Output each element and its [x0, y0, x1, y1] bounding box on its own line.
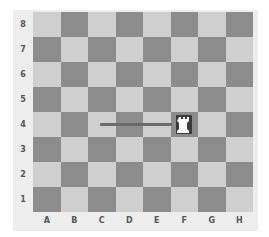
square-g8[interactable]: [198, 12, 226, 37]
square-h2[interactable]: [226, 162, 254, 187]
square-f7[interactable]: [171, 37, 199, 62]
square-h3[interactable]: [226, 137, 254, 162]
square-b2[interactable]: [61, 162, 89, 187]
file-label-f: F: [171, 216, 199, 225]
square-g2[interactable]: [198, 162, 226, 187]
square-h1[interactable]: [226, 187, 254, 212]
square-h6[interactable]: [226, 62, 254, 87]
white-rook-f4[interactable]: [171, 112, 199, 137]
rank-label-2: 2: [13, 170, 33, 179]
square-a1[interactable]: [33, 187, 61, 212]
rank-label-1: 1: [13, 195, 33, 204]
square-c6[interactable]: [88, 62, 116, 87]
square-b7[interactable]: [61, 37, 89, 62]
square-a7[interactable]: [33, 37, 61, 62]
square-a5[interactable]: [33, 87, 61, 112]
square-c3[interactable]: [88, 137, 116, 162]
square-c8[interactable]: [88, 12, 116, 37]
move-path-line: [100, 123, 172, 126]
square-c2[interactable]: [88, 162, 116, 187]
square-g6[interactable]: [198, 62, 226, 87]
rank-label-4: 4: [13, 120, 33, 129]
square-g7[interactable]: [198, 37, 226, 62]
square-b4[interactable]: [61, 112, 89, 137]
square-a3[interactable]: [33, 137, 61, 162]
square-d2[interactable]: [116, 162, 144, 187]
chess-board[interactable]: [33, 12, 253, 212]
square-d5[interactable]: [116, 87, 144, 112]
square-a6[interactable]: [33, 62, 61, 87]
square-d1[interactable]: [116, 187, 144, 212]
square-d3[interactable]: [116, 137, 144, 162]
square-a2[interactable]: [33, 162, 61, 187]
square-d8[interactable]: [116, 12, 144, 37]
square-e2[interactable]: [143, 162, 171, 187]
square-b6[interactable]: [61, 62, 89, 87]
square-h4[interactable]: [226, 112, 254, 137]
square-b5[interactable]: [61, 87, 89, 112]
square-h8[interactable]: [226, 12, 254, 37]
square-f1[interactable]: [171, 187, 199, 212]
rank-label-6: 6: [13, 70, 33, 79]
rank-label-8: 8: [13, 20, 33, 29]
file-label-d: D: [116, 216, 144, 225]
square-c5[interactable]: [88, 87, 116, 112]
square-f3[interactable]: [171, 137, 199, 162]
square-e5[interactable]: [143, 87, 171, 112]
square-f2[interactable]: [171, 162, 199, 187]
file-label-h: H: [226, 216, 254, 225]
file-label-g: G: [198, 216, 226, 225]
square-f8[interactable]: [171, 12, 199, 37]
square-b8[interactable]: [61, 12, 89, 37]
file-label-c: C: [88, 216, 116, 225]
file-label-a: A: [33, 216, 61, 225]
square-e1[interactable]: [143, 187, 171, 212]
rook-icon: [175, 114, 193, 135]
square-g4[interactable]: [198, 112, 226, 137]
square-g1[interactable]: [198, 187, 226, 212]
square-g5[interactable]: [198, 87, 226, 112]
square-b1[interactable]: [61, 187, 89, 212]
rank-label-5: 5: [13, 95, 33, 104]
square-h5[interactable]: [226, 87, 254, 112]
square-a8[interactable]: [33, 12, 61, 37]
square-e3[interactable]: [143, 137, 171, 162]
square-b3[interactable]: [61, 137, 89, 162]
file-label-e: E: [143, 216, 171, 225]
square-d7[interactable]: [116, 37, 144, 62]
square-e6[interactable]: [143, 62, 171, 87]
square-g3[interactable]: [198, 137, 226, 162]
square-e7[interactable]: [143, 37, 171, 62]
square-h7[interactable]: [226, 37, 254, 62]
file-label-b: B: [61, 216, 89, 225]
square-a4[interactable]: [33, 112, 61, 137]
rank-label-7: 7: [13, 45, 33, 54]
square-c7[interactable]: [88, 37, 116, 62]
square-d6[interactable]: [116, 62, 144, 87]
square-e8[interactable]: [143, 12, 171, 37]
square-f5[interactable]: [171, 87, 199, 112]
square-f6[interactable]: [171, 62, 199, 87]
rank-label-3: 3: [13, 145, 33, 154]
square-c1[interactable]: [88, 187, 116, 212]
